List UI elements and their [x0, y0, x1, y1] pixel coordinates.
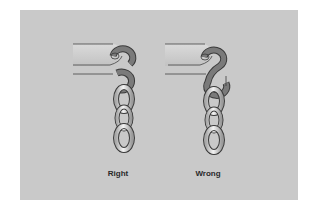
beam-wrong	[165, 44, 212, 74]
wrong-example	[165, 44, 227, 152]
chain-right	[116, 87, 132, 150]
label-right: Right	[93, 169, 143, 178]
label-wrong: Wrong	[183, 169, 233, 178]
hook-chain-illustration	[0, 0, 312, 210]
right-example	[73, 44, 133, 150]
